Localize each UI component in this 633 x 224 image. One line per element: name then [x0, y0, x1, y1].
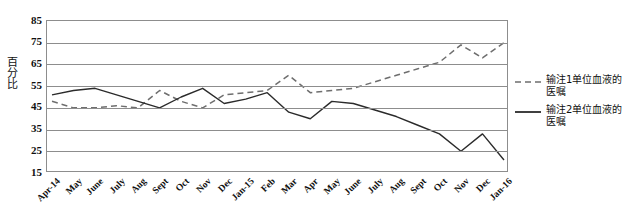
- gridline: [47, 151, 507, 152]
- gridline: [47, 64, 507, 65]
- x-tick-label: Nov: [452, 176, 471, 195]
- x-tick-label: Dec: [216, 176, 234, 194]
- x-tick-label: Sept: [150, 176, 170, 196]
- series-line-2: [52, 88, 504, 160]
- x-tick-label: May: [322, 176, 342, 196]
- chart-legend: 输注1单位血液的医嘱输注2单位血液的医嘱: [515, 74, 633, 134]
- x-tick-label: June: [84, 176, 105, 197]
- legend-label: 输注1单位血液的医嘱: [546, 74, 630, 98]
- gridline: [47, 108, 507, 109]
- x-tick-label: Oct: [432, 176, 450, 194]
- y-tick-label: 15: [18, 167, 42, 178]
- y-tick-label: 65: [18, 58, 42, 69]
- line-chart: 百分比 8575655545352515 Apr-14MayJuneJulyAu…: [0, 0, 633, 224]
- plot-area: [46, 20, 508, 172]
- y-axis-tick-labels: 8575655545352515: [16, 0, 42, 224]
- solid-line-icon: [515, 106, 541, 118]
- gridline: [47, 43, 507, 44]
- series-lines: [47, 21, 509, 173]
- y-tick-label: 85: [18, 15, 42, 26]
- dashed-line-icon: [515, 76, 541, 88]
- x-tick-label: May: [63, 176, 83, 196]
- y-tick-label: 35: [18, 123, 42, 134]
- legend-label: 输注2单位血液的医嘱: [546, 104, 630, 128]
- x-tick-label: Jan-15: [229, 176, 255, 202]
- x-axis-tick-labels: Apr-14MayJuneJulyAugSeptOctNovDecJan-15F…: [46, 172, 508, 224]
- y-tick-label: 55: [18, 80, 42, 91]
- x-tick-label: Mar: [279, 176, 299, 196]
- x-tick-label: June: [343, 176, 364, 197]
- y-tick-label: 45: [18, 101, 42, 112]
- x-tick-label: Jan-16: [488, 176, 514, 202]
- y-tick-label: 75: [18, 36, 42, 47]
- x-tick-label: Aug: [387, 176, 406, 195]
- y-tick-label: 25: [18, 145, 42, 156]
- x-tick-label: July: [107, 176, 126, 195]
- x-tick-label: July: [366, 176, 385, 195]
- series-line-1: [52, 43, 504, 108]
- gridline: [47, 86, 507, 87]
- x-tick-label: Nov: [194, 176, 213, 195]
- legend-item[interactable]: 输注2单位血液的医嘱: [515, 104, 633, 128]
- legend-item[interactable]: 输注1单位血液的医嘱: [515, 74, 633, 98]
- x-tick-label: Sept: [408, 176, 428, 196]
- x-tick-label: Oct: [174, 176, 192, 194]
- x-tick-label: Feb: [259, 176, 277, 194]
- gridline: [47, 130, 507, 131]
- x-tick-label: Aug: [129, 176, 148, 195]
- x-tick-label: Apr: [302, 176, 321, 195]
